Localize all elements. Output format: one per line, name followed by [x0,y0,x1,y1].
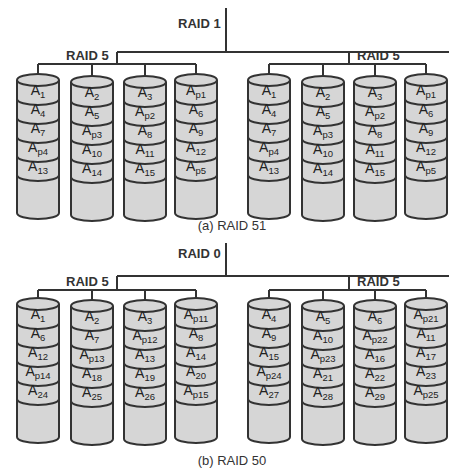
raid5-group-2: RAID 5A4A9A15Ap24A27A5A10Ap23A21A28A6Ap2… [248,274,447,445]
disk: A1A6A12Ap14A24 [17,290,59,443]
raid5-group-2: RAID 5A1A4A7Ap4A13A2A5Ap3A10A14A3Ap2A8A1… [248,48,447,221]
disk: A6Ap22A16A22A29 [354,290,396,445]
disk-top [175,74,217,86]
disk-top [405,74,447,86]
raid5-label: RAID 5 [357,48,400,63]
disk: A2A7Ap13A18A25 [71,290,113,445]
diagram-caption: (a) RAID 51 [198,218,267,233]
diagram-raid-51: RAID 1RAID 5A1A4A7Ap4A13A2A5Ap3A10A14A3A… [17,8,449,233]
raid5-label: RAID 5 [357,274,400,289]
top-raid-label: RAID 1 [178,16,221,31]
disk: A1A4A7Ap4A13 [17,64,59,219]
raid5-label: RAID 5 [66,48,109,63]
raid-diagram: RAID 1RAID 5A1A4A7Ap4A13A2A5Ap3A10A14A3A… [0,0,465,475]
disk: Ap21A11A17A23Ap25 [405,290,447,443]
disk: A3Ap12A13A19A26 [124,290,166,445]
disk: A1A4A7Ap4A13 [248,64,290,219]
disk: Ap1A6A9A12Ap5 [405,64,447,219]
diagram-caption: (b) RAID 50 [198,453,267,468]
disk: Ap11A8A14A20Ap15 [175,290,217,443]
raid5-group-1: RAID 5A1A6A12Ap14A24A2A7Ap13A18A25A3Ap12… [17,274,217,445]
disk: Ap1A6A9A12Ap5 [175,64,217,219]
disk: A3Ap2A8A11A15 [354,64,396,221]
disk: A2A5Ap3A10A14 [71,64,113,221]
diagram-raid-50: RAID 0RAID 5A1A6A12Ap14A24A2A7Ap13A18A25… [17,243,449,468]
disk: A5A10Ap23A21A28 [302,290,344,445]
top-raid-label: RAID 0 [178,246,221,261]
raid5-group-1: RAID 5A1A4A7Ap4A13A2A5Ap3A10A14A3Ap2A8A1… [17,48,217,221]
disk: A2A5Ap3A10A14 [302,64,344,221]
disk: A4A9A15Ap24A27 [248,290,290,443]
raid5-label: RAID 5 [66,274,109,289]
disk: A3Ap2A8A11A15 [124,64,166,221]
disk-top [175,298,217,310]
disk-top [405,298,447,310]
